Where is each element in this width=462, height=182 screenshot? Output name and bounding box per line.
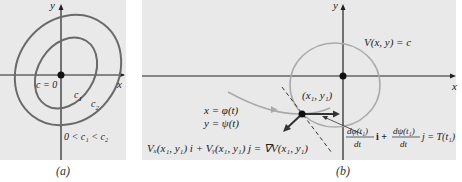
diagram-canvas-b: y x V(x, y) = c (x₁, y₁) x = φ(t) y = ψ(… xyxy=(0,0,462,182)
svg-text:dt: dt xyxy=(354,139,362,149)
svg-text:dt: dt xyxy=(400,139,408,149)
tangent-equation: dφ(t₁) dt i + dψ(t₁) dt j = T(t₁) xyxy=(346,126,456,149)
y-label-b: y xyxy=(332,0,338,11)
svg-text:j = T(t₁): j = T(t₁) xyxy=(420,131,456,143)
panel-b-graphics: y x V(x, y) = c (x₁, y₁) x = φ(t) y = ψ(… xyxy=(142,0,457,160)
svg-text:i +: i + xyxy=(376,131,387,142)
y-axis-arrow-icon xyxy=(341,4,346,10)
origin-point-b xyxy=(340,73,347,80)
param-y-label: y = ψ(t) xyxy=(203,117,239,130)
caption-b: (b) xyxy=(336,164,350,179)
x-axis-arrow-icon xyxy=(450,74,456,79)
param-x-label: x = φ(t) xyxy=(203,104,239,117)
point-x1-y1 xyxy=(299,111,306,118)
level-curve-label: V(x, y) = c xyxy=(364,36,411,49)
x-label-b: x xyxy=(451,80,457,92)
gradient-equation: Vₓ(x₁, y₁) i + Vᵧ(x₁, y₁) j = ∇V(x₁, y₁) xyxy=(147,142,308,155)
tangent-arrow-icon xyxy=(333,111,340,118)
point-label: (x₁, y₁) xyxy=(302,89,333,102)
caption-a: (a) xyxy=(56,164,70,179)
svg-text:dφ(t₁): dφ(t₁) xyxy=(347,126,368,136)
svg-text:dψ(t₁): dψ(t₁) xyxy=(393,126,415,136)
